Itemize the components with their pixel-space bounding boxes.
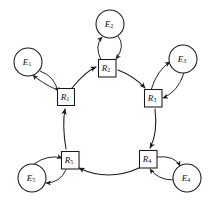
entity-node-e5[interactable]: E5 [18, 164, 46, 192]
ring-edge-r2-r3 [118, 70, 145, 88]
entity-node-e1[interactable]: E1 [14, 48, 42, 76]
ring-edge-r5-r1 [64, 109, 66, 149]
resource-node-r3[interactable]: R3 [145, 90, 163, 108]
entity-edge-e1-r1 [33, 71, 58, 92]
edge-r5-to-e5 [46, 170, 66, 183]
edge-r2-to-e2 [98, 37, 102, 60]
edge-e5-to-r5 [34, 157, 62, 164]
edge-e2-to-r2 [116, 36, 122, 59]
ring-edge-r4-r5 [79, 168, 139, 175]
resource-node-r1[interactable]: R1 [58, 89, 75, 106]
node-sub-e5: 5 [32, 177, 35, 183]
edge-r4-to-e4 [157, 157, 180, 166]
entity-node-e4[interactable]: E4 [173, 164, 201, 192]
edge-e3-to-r3 [163, 73, 184, 98]
edge-r1-to-e1 [33, 75, 57, 90]
entity-edge-e2-r2 [98, 36, 122, 60]
node-sub-e2: 2 [110, 23, 113, 29]
entity-node-e2[interactable]: E2 [96, 10, 124, 38]
ring-edge-r3-r4 [150, 109, 156, 148]
node-sub-r2: 2 [107, 67, 110, 73]
node-sub-r4: 4 [148, 158, 151, 164]
node-sub-e3: 3 [183, 58, 186, 64]
node-sub-r5: 5 [70, 159, 73, 165]
ring-diagram: R1 R2 R3 R4 R5 [0, 0, 219, 208]
node-sub-r1: 1 [66, 96, 69, 102]
node-sub-r3: 3 [153, 97, 156, 103]
resource-node-r2[interactable]: R2 [99, 60, 117, 78]
resource-node-r5[interactable]: R5 [62, 152, 80, 170]
edge-e4-to-r4 [150, 169, 173, 180]
diagram-canvas: R1 R2 R3 R4 R5 [0, 0, 219, 208]
node-sub-e1: 1 [28, 61, 31, 67]
resource-node-r4[interactable]: R4 [140, 151, 158, 169]
entity-node-e3[interactable]: E3 [169, 45, 197, 73]
ring-edge-r1-r2 [72, 67, 96, 88]
node-sub-e4: 4 [187, 177, 190, 183]
edge-r3-to-e3 [151, 62, 170, 90]
